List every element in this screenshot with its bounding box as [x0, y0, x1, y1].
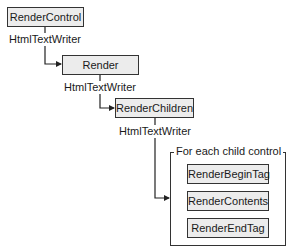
node-render-contents-label: RenderContents [188, 195, 268, 207]
node-render-children-label: RenderChildren [116, 102, 193, 114]
node-render-contents: RenderContents [187, 191, 269, 211]
node-render-end-tag: RenderEndTag [187, 218, 269, 238]
for-each-child-group-title: For each child control [174, 145, 283, 158]
node-render-begin-tag-label: RenderBeginTag [188, 168, 270, 180]
edge-label-writer-3: HtmlTextWriter [116, 125, 194, 138]
node-render-control: RenderControl [7, 7, 84, 27]
node-render-label: Render [82, 59, 118, 71]
node-render-begin-tag: RenderBeginTag [187, 164, 269, 184]
node-render-control-label: RenderControl [10, 11, 82, 23]
edge-label-writer-1: HtmlTextWriter [6, 33, 84, 46]
node-render: Render [62, 55, 139, 75]
node-render-end-tag-label: RenderEndTag [191, 222, 264, 234]
node-render-children: RenderChildren [115, 98, 194, 118]
edge-label-writer-2: HtmlTextWriter [61, 81, 139, 94]
diagram-canvas: RenderControl HtmlTextWriter Render Html… [0, 0, 292, 252]
